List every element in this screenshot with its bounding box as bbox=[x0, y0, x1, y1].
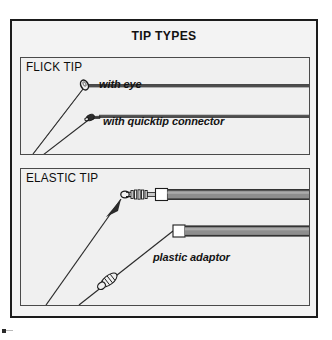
elastic-tip-diagram bbox=[21, 169, 310, 306]
figure-root: TIP TYPES FLICK TIP bbox=[0, 0, 332, 340]
panel-elastic-tip: ELASTIC TIP bbox=[20, 168, 310, 306]
figure-frame: TIP TYPES FLICK TIP bbox=[10, 19, 318, 318]
elastic-coil-ring-2 bbox=[135, 190, 137, 199]
elastic-rod-2-sheen bbox=[185, 228, 310, 230]
plastic-adaptor-block-2 bbox=[173, 225, 185, 237]
elastic-rod-1-body bbox=[168, 189, 311, 200]
elastic-coil-ring-3 bbox=[138, 190, 140, 199]
elastic-rod-2-body bbox=[185, 226, 310, 237]
elastic-rod-2-top-edge bbox=[185, 226, 310, 228]
panel-label-flick-tip: FLICK TIP bbox=[26, 60, 82, 74]
annotation-plastic-adaptor: plastic adaptor bbox=[153, 251, 230, 263]
elastic-rod-with-connector bbox=[46, 189, 310, 306]
annotation-with-eye: with eye bbox=[99, 78, 142, 90]
elastic-rod-1-top-edge bbox=[168, 189, 311, 191]
elastic-rod-1-sheen bbox=[168, 192, 311, 194]
panel-label-elastic-tip: ELASTIC TIP bbox=[26, 171, 98, 185]
quicktip-connector-sleeve bbox=[94, 116, 100, 118]
flick-rod-1-taper-shade bbox=[33, 89, 83, 154]
plastic-adaptor-block-1 bbox=[156, 189, 168, 201]
quicktip-connector-loop bbox=[84, 117, 89, 121]
panel-flick-tip: FLICK TIP bbox=[20, 57, 310, 155]
page-title: TIP TYPES bbox=[27, 28, 301, 43]
elastic-rod-2-bottom-edge bbox=[185, 235, 310, 237]
elastic-coil-ring-4 bbox=[142, 190, 144, 199]
elastic-rod-1-bottom-edge bbox=[168, 198, 311, 200]
elastic-coil-ring-5 bbox=[145, 191, 147, 199]
flick-rod-2-taper bbox=[43, 118, 91, 155]
elastic-connector-bar-1 bbox=[148, 193, 156, 197]
annotation-with-quicktip-connector: with quicktip connector bbox=[103, 115, 224, 127]
elastic-rod-2-taper bbox=[79, 231, 173, 305]
elastic-coil-group-2 bbox=[95, 271, 119, 293]
elastic-coil-ring-1 bbox=[131, 191, 133, 199]
elastic-rod-with-plastic-adaptor bbox=[79, 225, 310, 305]
stray-mark-tail bbox=[6, 330, 13, 331]
